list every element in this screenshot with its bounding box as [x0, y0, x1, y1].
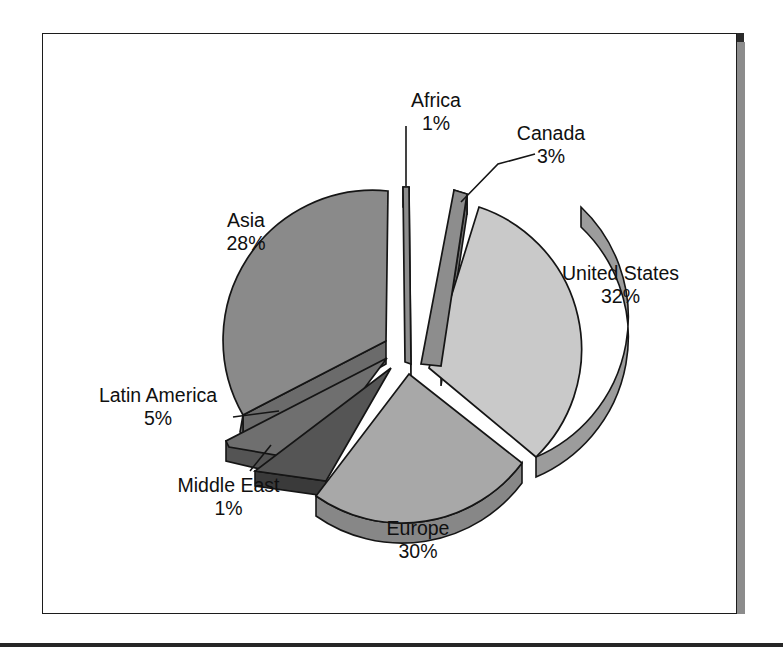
pie-label-asia: Asia 28% [191, 209, 301, 255]
figure-frame: Africa 1% Canada 3% Asia 28% United Stat… [42, 33, 737, 614]
pie-label-asia-name: Asia [191, 209, 301, 232]
pie-label-canada-name: Canada [491, 122, 611, 145]
pie-label-europe-name: Europe [353, 517, 483, 540]
pie-label-middle-east: Middle East 1% [141, 474, 316, 520]
pie-label-europe-value: 30% [353, 540, 483, 563]
pie-label-canada: Canada 3% [491, 122, 611, 168]
pie-label-united-states-name: United States [533, 262, 708, 285]
pie-label-asia-value: 28% [191, 232, 301, 255]
frame-drop-shadow [737, 42, 745, 614]
pie-label-europe: Europe 30% [353, 517, 483, 563]
pie-chart: Africa 1% Canada 3% Asia 28% United Stat… [43, 34, 738, 615]
pie-label-canada-value: 3% [491, 145, 611, 168]
pie-label-africa-value: 1% [381, 112, 491, 135]
slice-top-africa [403, 187, 411, 364]
pie-label-africa-name: Africa [381, 89, 491, 112]
page-bottom-rule [0, 643, 783, 647]
pie-label-africa: Africa 1% [381, 89, 491, 135]
pie-label-united-states: United States 32% [533, 262, 708, 308]
pie-label-latin-america: Latin America 5% [68, 384, 248, 430]
pie-label-middle-east-value: 1% [141, 497, 316, 520]
pie-label-united-states-value: 32% [533, 285, 708, 308]
pie-label-middle-east-name: Middle East [141, 474, 316, 497]
pie-label-latin-america-value: 5% [68, 407, 248, 430]
pie-label-latin-america-name: Latin America [68, 384, 248, 407]
